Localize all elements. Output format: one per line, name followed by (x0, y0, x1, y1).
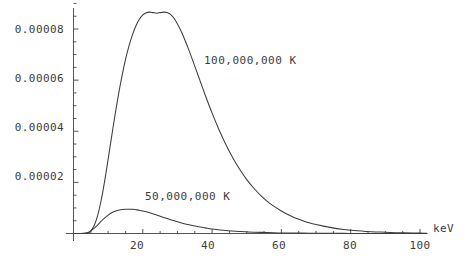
x-tick-label: 40 (188, 239, 228, 252)
x-axis-title: keV (433, 222, 454, 235)
data-curves (74, 12, 427, 233)
y-axis-ticks (74, 3, 79, 220)
plot-canvas (0, 0, 472, 265)
y-tick-label: 0.00002 (4, 170, 64, 183)
series-label-50-million-k: 50,000,000 K (145, 190, 230, 203)
series-label-100-million-k: 100,000,000 K (204, 54, 297, 67)
chart-figure: 0.00002 0.00004 0.00006 0.00008 20 40 60… (0, 0, 472, 265)
y-tick-label: 0.00006 (4, 72, 64, 85)
x-tick-label: 20 (117, 239, 157, 252)
y-tick-label: 0.00004 (4, 121, 64, 134)
curve-series-2 (74, 209, 427, 233)
x-tick-label: 100 (400, 239, 440, 252)
x-tick-label: 60 (259, 239, 299, 252)
y-tick-label: 0.00008 (4, 23, 64, 36)
axes-group (66, 8, 424, 241)
curve-series-1 (74, 12, 427, 233)
x-tick-label: 80 (330, 239, 370, 252)
